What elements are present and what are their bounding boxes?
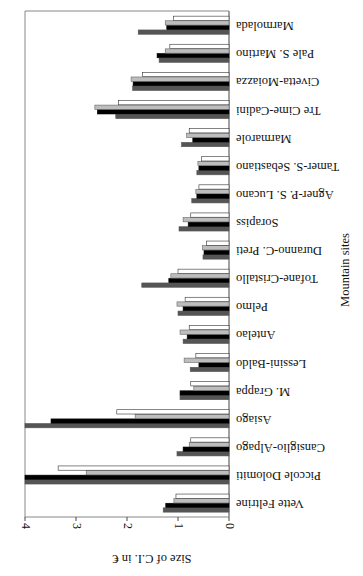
bar	[184, 358, 229, 362]
bar	[165, 49, 229, 53]
category-label: Pale S. Martino	[236, 47, 314, 61]
bar	[118, 100, 229, 104]
bar	[180, 391, 229, 395]
bar	[180, 395, 229, 399]
bar	[131, 77, 229, 81]
category-label: Vette Feltrine	[236, 497, 304, 511]
bar	[180, 330, 229, 334]
bar	[198, 161, 229, 165]
bar-group	[180, 325, 229, 343]
bar	[189, 325, 229, 329]
bar	[25, 475, 229, 479]
bar-group	[25, 410, 229, 428]
bar	[165, 21, 229, 25]
bar	[159, 58, 229, 62]
bar	[201, 157, 229, 161]
bar	[170, 44, 229, 48]
category-label: Tamer-S. Sebastiano	[236, 160, 339, 174]
bar	[191, 438, 229, 442]
bar-chart: 01234Size of C.I. in €Vette FeltrinePicc…	[0, 0, 363, 576]
bar	[196, 189, 229, 193]
bar	[171, 274, 229, 278]
bar	[138, 30, 229, 34]
bar-group	[163, 494, 229, 512]
category-label: Marmarole	[236, 132, 292, 146]
bar	[97, 110, 229, 114]
tick-label: 1	[172, 523, 186, 529]
bar	[192, 199, 229, 203]
category-label: Agner-P. S. Lucano	[236, 188, 334, 202]
bar	[207, 241, 229, 245]
bar-group	[142, 269, 229, 287]
category-label: Civetta-Moiazza	[236, 75, 320, 89]
bar	[197, 171, 229, 175]
bar	[173, 16, 229, 20]
bar	[191, 382, 229, 386]
bar	[58, 466, 229, 470]
category-label: Tofane-Cristallo	[236, 272, 318, 286]
bar	[187, 335, 229, 339]
tick-label: 0	[223, 523, 237, 529]
bar	[133, 82, 229, 86]
tick-label: 3	[70, 523, 84, 529]
bar	[190, 367, 229, 371]
category-label: Marmolada	[236, 19, 294, 33]
bar	[157, 53, 229, 57]
bar	[189, 442, 229, 446]
bar	[202, 246, 229, 250]
bar	[142, 72, 229, 76]
bar-group	[180, 382, 229, 400]
bar	[51, 419, 229, 423]
bar	[169, 278, 229, 282]
bar	[194, 386, 229, 390]
bar-group	[192, 185, 229, 203]
bar	[196, 353, 229, 357]
category-label: Tre Cime-Cadini	[235, 104, 320, 118]
bar-group	[182, 129, 229, 147]
bar	[179, 227, 229, 231]
bar-group	[184, 353, 229, 371]
category-label: M. Grappa	[236, 385, 291, 399]
bar	[199, 166, 229, 170]
bar-group	[197, 157, 229, 175]
bar	[189, 129, 229, 133]
bar	[188, 222, 229, 226]
bar	[166, 503, 229, 507]
bar	[204, 250, 229, 254]
bar-group	[177, 438, 229, 456]
bar	[183, 447, 229, 451]
bar	[178, 269, 229, 273]
category-label: Asiago	[236, 413, 271, 427]
bar	[199, 185, 229, 189]
category-label: Piccole Dolomiti	[235, 469, 321, 483]
bar	[86, 471, 229, 475]
bar	[183, 306, 229, 310]
bar-group	[138, 16, 229, 34]
bar	[25, 424, 229, 428]
bar	[135, 414, 229, 418]
bar-group	[131, 72, 229, 90]
bar	[177, 452, 229, 456]
bar	[203, 255, 229, 259]
bar	[163, 508, 229, 512]
bar	[191, 213, 229, 217]
bar	[178, 311, 229, 315]
bar	[199, 363, 229, 367]
category-label: Pelmo	[236, 300, 268, 314]
category-label: Antelao	[236, 328, 276, 342]
bar	[177, 302, 229, 306]
bar	[197, 194, 229, 198]
category-label: Lessini-Baldo	[236, 357, 306, 371]
bar	[193, 138, 229, 142]
bar	[185, 297, 229, 301]
bar	[183, 218, 229, 222]
category-label: Duranno-C. Preti	[235, 244, 322, 258]
bar	[117, 410, 229, 414]
bar-group	[95, 100, 229, 118]
bar	[95, 105, 229, 109]
bar	[183, 339, 229, 343]
bar-group	[157, 44, 229, 62]
bar-group	[177, 297, 229, 315]
bar	[182, 142, 229, 146]
category-label: Sorapiss	[236, 216, 279, 230]
